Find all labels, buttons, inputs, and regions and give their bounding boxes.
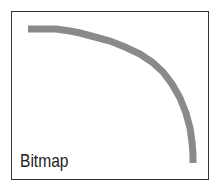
bitmap-label: Bitmap bbox=[20, 150, 68, 172]
curve-stroke bbox=[28, 29, 193, 163]
